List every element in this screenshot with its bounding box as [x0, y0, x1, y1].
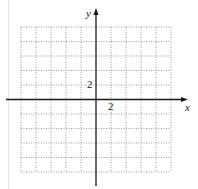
- y-axis: [94, 8, 99, 186]
- x-tick-label: 2: [108, 101, 114, 112]
- coordinate-plane: [0, 0, 198, 189]
- y-axis-arrow-icon: [94, 8, 99, 15]
- y-axis-label: y: [86, 8, 91, 19]
- x-axis: [6, 97, 188, 102]
- y-tick-label: 2: [87, 79, 93, 90]
- x-axis-label: x: [185, 102, 190, 113]
